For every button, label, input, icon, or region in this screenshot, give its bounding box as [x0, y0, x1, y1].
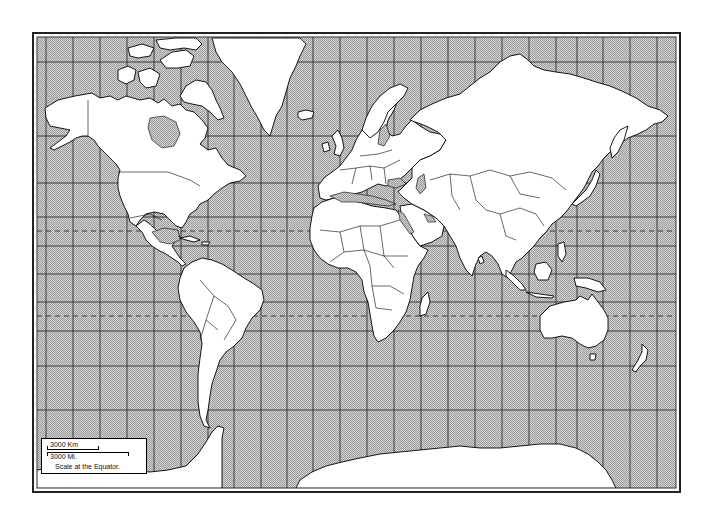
scale-mi-label: 3000 Mi.	[50, 453, 77, 461]
scale-km-label: 3000 Km	[50, 441, 78, 449]
ireland	[322, 142, 330, 152]
ellesmere-island	[156, 38, 202, 50]
hispaniola	[202, 242, 210, 245]
scale-legend: 3000 Km 3000 Mi. Scale at the Equator.	[41, 438, 147, 474]
iceland	[298, 110, 314, 120]
scale-caption: Scale at the Equator.	[55, 463, 120, 471]
tasmania	[590, 354, 596, 360]
